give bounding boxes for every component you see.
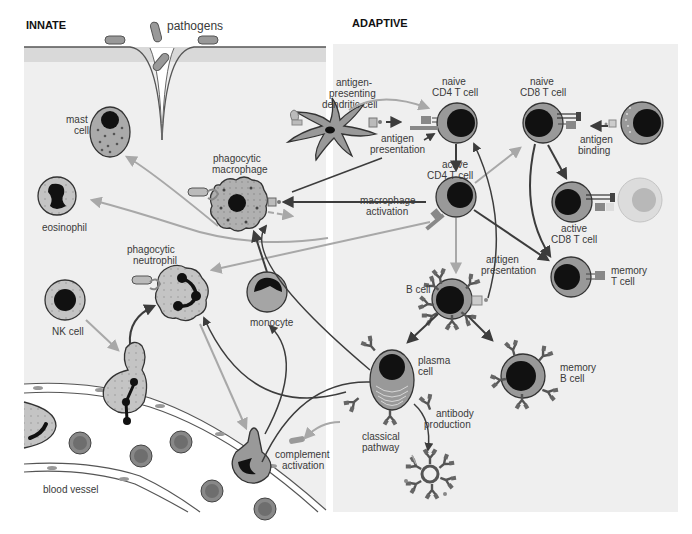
blood-vessel-label: blood vessel — [43, 484, 99, 495]
antigen-presentation-2-label-1: antigen — [486, 254, 519, 265]
active-cd8-label-2: CD8 T cell — [551, 234, 597, 245]
naive-cd4-label-1: naive — [442, 76, 466, 87]
classical-pathway-label-2: pathway — [362, 442, 399, 453]
dendritic-label-1: antigen- — [336, 77, 372, 88]
immune-system-diagram: INNATE ADAPTIVE pathogens blood vess — [0, 0, 692, 534]
macrophage-label-1: phagocytic — [213, 153, 261, 164]
naive-cd4-label-2: CD4 T cell — [432, 87, 478, 98]
innate-header: INNATE — [26, 19, 66, 31]
antigen-presentation-1-label-1: antigen — [381, 133, 414, 144]
antigen-presentation-2-label-2: presentation — [481, 265, 536, 276]
macrophage-activation-label-2: activation — [366, 206, 408, 217]
macrophage-activation-label-1: macrophage — [360, 195, 416, 206]
neutrophil-label-2: neutrophil — [133, 255, 177, 266]
nk-cell — [45, 280, 85, 320]
mast-cell-label-2: cell — [74, 125, 89, 136]
plasma-cell-label-1: plasma — [418, 355, 451, 366]
macrophage-label-2: macrophage — [212, 164, 268, 175]
plasma-cell-label-2: cell — [418, 366, 433, 377]
memory-t-label-1: memory — [611, 265, 647, 276]
target-cell-faded — [618, 178, 662, 222]
naive-cd8-label-1: naive — [530, 76, 554, 87]
antigen-presentation-1-label-2: presentation — [370, 144, 425, 155]
nk-cell-label: NK cell — [52, 326, 84, 337]
antigen-binding-label-1: antigen — [580, 134, 613, 145]
neutrophil-label-1: phagocytic — [127, 244, 175, 255]
classical-pathway-label-1: classical — [362, 431, 400, 442]
antigen-binding-label-2: binding — [578, 145, 610, 156]
b-cell-label: B cell — [406, 284, 430, 295]
dendritic-label-2: presenting — [329, 88, 376, 99]
memory-b-label-2: B cell — [560, 373, 584, 384]
monocyte-label: monocyte — [250, 317, 294, 328]
active-cd4-label-2: CD4 T cell — [427, 170, 473, 181]
mast-cell — [90, 107, 130, 157]
monocyte — [247, 272, 287, 312]
memory-b-label-1: memory — [560, 362, 596, 373]
memory-t-label-2: T cell — [611, 276, 635, 287]
antibody-production-label-2: production — [424, 419, 471, 430]
pathogens-label: pathogens — [167, 19, 223, 33]
naive-cd8-label-2: CD8 T cell — [520, 87, 566, 98]
mast-cell-label-1: mast — [66, 114, 88, 125]
antibody-production-label-1: antibody — [436, 408, 474, 419]
eosinophil-label: eosinophil — [42, 222, 87, 233]
diagram-canvas: INNATE ADAPTIVE pathogens blood vess — [0, 0, 692, 534]
active-cd8-label-1: active — [561, 223, 588, 234]
adaptive-header: ADAPTIVE — [352, 17, 408, 29]
eosinophil — [38, 177, 76, 215]
complement-label-2: activation — [282, 460, 324, 471]
complement-label-1: complement — [275, 449, 330, 460]
